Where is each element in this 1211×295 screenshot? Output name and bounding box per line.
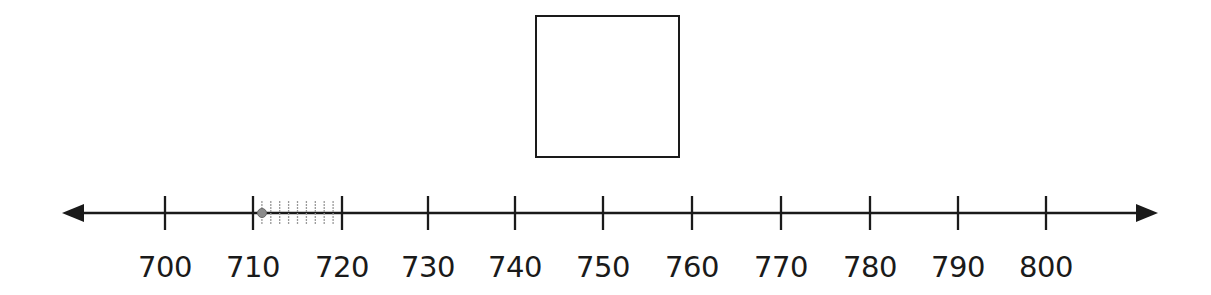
tick-label-720: 720	[315, 250, 369, 284]
tick-label-710: 710	[226, 250, 280, 284]
tick-label-800: 800	[1019, 250, 1073, 284]
tick-label-700: 700	[138, 250, 192, 284]
right-arrow-icon	[1136, 204, 1158, 222]
tick-label-730: 730	[401, 250, 455, 284]
tick-label-740: 740	[488, 250, 542, 284]
marked-point	[258, 209, 267, 218]
tick-label-760: 760	[665, 250, 719, 284]
left-arrow-icon	[62, 204, 84, 222]
tick-label-750: 750	[576, 250, 630, 284]
tick-label-790: 790	[931, 250, 985, 284]
tick-label-780: 780	[843, 250, 897, 284]
tick-label-770: 770	[754, 250, 808, 284]
